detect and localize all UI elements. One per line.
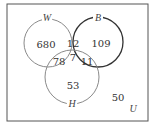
set-h-label: H xyxy=(67,98,76,109)
region-outside: 50 xyxy=(112,92,125,103)
region-b-h: 11 xyxy=(81,56,94,67)
region-w-h: 78 xyxy=(53,56,66,67)
venn-diagram: W B H U 680 12 109 7 78 11 53 50 xyxy=(0,0,150,127)
region-h-only: 53 xyxy=(67,80,80,91)
region-w-only: 680 xyxy=(36,39,55,50)
region-w-b: 12 xyxy=(67,38,80,49)
universe-label: U xyxy=(129,103,137,114)
set-b-label: B xyxy=(95,12,101,23)
region-w-b-h: 7 xyxy=(70,52,76,63)
region-b-only: 109 xyxy=(91,38,110,49)
